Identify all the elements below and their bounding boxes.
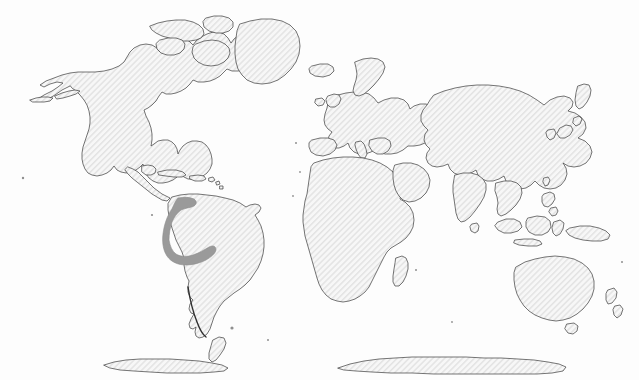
landmass-hispaniola [190, 175, 206, 181]
landmass-yucatan [142, 165, 156, 175]
world-map-figure [0, 0, 639, 380]
island-dot-south-georgia [267, 339, 269, 341]
island-dot-fiji [621, 261, 623, 263]
landmass-sri-lanka [470, 223, 479, 233]
island-dot-falklands [230, 326, 233, 329]
island-dot-azores [295, 142, 297, 144]
island-dot-cape-verde [292, 195, 294, 197]
landmass-java [514, 239, 542, 246]
island-dot-galapagos [151, 214, 153, 216]
landmass-iceland [309, 64, 334, 77]
world-map-canvas [0, 0, 639, 380]
landmass-baffin-island [192, 40, 230, 66]
landmass-borneo [526, 216, 551, 235]
island-dot-mauritius [415, 269, 417, 271]
landmass-victoria-island [156, 38, 185, 55]
island-dot-hawaii [22, 177, 24, 179]
island-dot-kerguelen [451, 321, 453, 323]
island-dot-canaries [299, 171, 301, 173]
